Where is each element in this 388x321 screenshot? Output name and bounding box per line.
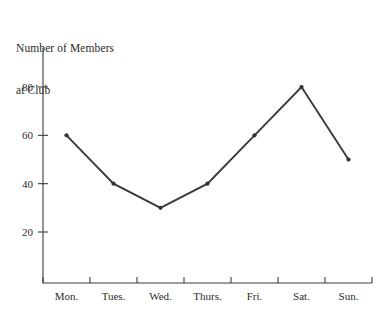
x-tick-label-wed: Wed. bbox=[149, 290, 172, 302]
x-tick-group: Mon.Tues.Wed.Thurs.Fri.Sat.Sun. bbox=[43, 277, 372, 302]
x-tick-label-fri: Fri. bbox=[247, 290, 263, 302]
data-point-mon bbox=[64, 133, 68, 137]
series-group bbox=[64, 85, 350, 210]
x-tick-label-mon: Mon. bbox=[55, 290, 79, 302]
y-tick-label: 40 bbox=[22, 178, 34, 190]
x-axis: Mon.Tues.Wed.Thurs.Fri.Sat.Sun. bbox=[43, 277, 372, 302]
x-tick-label-tues: Tues. bbox=[102, 290, 126, 302]
x-tick-label-sun: Sun. bbox=[339, 290, 359, 302]
series-line-members bbox=[67, 87, 349, 208]
y-tick-label: 20 bbox=[22, 226, 34, 238]
y-axis: 20406080 bbox=[22, 48, 48, 283]
data-point-fri bbox=[252, 133, 256, 137]
data-point-sat bbox=[299, 85, 303, 89]
data-point-thurs bbox=[205, 182, 209, 186]
data-point-tues bbox=[111, 182, 115, 186]
chart-container: Number of Members at Club 20406080 Mon.T… bbox=[0, 0, 388, 321]
line-chart-plot: 20406080 Mon.Tues.Wed.Thurs.Fri.Sat.Sun. bbox=[0, 0, 388, 321]
data-point-wed bbox=[158, 206, 162, 210]
x-tick-label-sat: Sat. bbox=[293, 290, 310, 302]
x-tick-label-thurs: Thurs. bbox=[193, 290, 222, 302]
series-marker-group bbox=[64, 85, 350, 210]
data-point-sun bbox=[346, 157, 350, 161]
y-tick-label: 60 bbox=[22, 129, 34, 141]
y-tick-label: 80 bbox=[22, 81, 34, 93]
y-tick-group: 20406080 bbox=[22, 81, 48, 238]
